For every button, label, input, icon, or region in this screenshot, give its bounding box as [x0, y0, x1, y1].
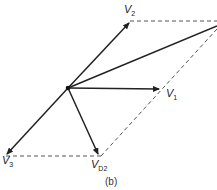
label-v3: V3	[2, 155, 13, 168]
dashed-line-v1-parallel	[101, 29, 217, 156]
vector-v1-arrow	[68, 88, 159, 89]
resultant-line	[68, 26, 217, 88]
vector-vd2-arrow	[68, 88, 98, 154]
label-v2: V2	[124, 4, 135, 17]
label-vd2: VD2	[91, 159, 107, 172]
label-v1: V1	[166, 88, 177, 101]
vector-diagram	[0, 0, 217, 190]
vector-v3-arrow	[7, 88, 68, 154]
figure-caption: (b)	[105, 177, 117, 187]
origin-point	[66, 86, 71, 91]
vector-v2-arrow	[68, 23, 129, 88]
